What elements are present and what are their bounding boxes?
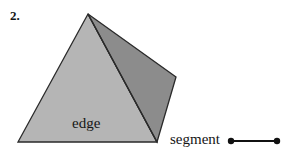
edge-label: edge xyxy=(72,115,100,132)
pyramid-diagram xyxy=(0,0,288,156)
figure-canvas: 2. edge segment xyxy=(0,0,288,156)
segment-endpoint-left-dot xyxy=(228,138,234,144)
segment-label: segment xyxy=(170,131,220,148)
segment-endpoint-right-dot xyxy=(274,138,280,144)
